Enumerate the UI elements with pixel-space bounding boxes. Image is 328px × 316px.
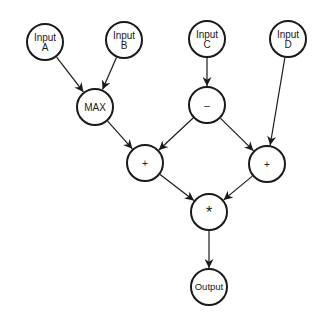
node-label: A [42, 42, 49, 53]
arrow-icon [160, 175, 194, 201]
node-label: C [203, 39, 210, 50]
node-minus: – [189, 87, 225, 123]
node-label: D [284, 39, 291, 50]
node-label: + [142, 158, 148, 169]
node-label: * [206, 204, 212, 221]
node-inputB: InputB [106, 22, 142, 58]
arrow-icon [270, 58, 285, 146]
node-max: MAX [77, 89, 113, 125]
node-inputC: InputC [189, 21, 225, 57]
node-plusRight: + [249, 146, 285, 182]
edge-max-to-plusLeft [108, 121, 133, 149]
nodes-layer: InputAInputBInputCInputDMAX–++*Output [27, 21, 306, 305]
arrow-icon [224, 176, 253, 200]
node-multiply: * [191, 194, 227, 230]
edge-inputB-to-max [103, 57, 117, 89]
arrow-icon [57, 57, 84, 92]
edge-inputD-to-plusRight [270, 58, 285, 146]
node-output: Output [191, 269, 227, 305]
computation-graph: InputAInputBInputCInputDMAX–++*Output [0, 0, 328, 316]
node-label: – [204, 100, 210, 111]
arrow-icon [103, 57, 117, 89]
arrow-icon [108, 121, 133, 149]
edge-plusRight-to-multiply [224, 176, 253, 200]
node-label: Output [195, 281, 224, 292]
edge-plusLeft-to-multiply [160, 175, 194, 201]
node-inputD: InputD [270, 21, 306, 57]
node-label: MAX [84, 102, 106, 113]
node-inputA: InputA [27, 24, 63, 60]
arrow-icon [159, 118, 193, 150]
node-label: + [264, 159, 270, 170]
edge-minus-to-plusRight [221, 118, 254, 150]
edge-minus-to-plusLeft [159, 118, 193, 150]
node-plusLeft: + [127, 145, 163, 181]
node-label: B [121, 40, 128, 51]
edge-inputA-to-max [57, 57, 84, 92]
arrow-icon [221, 118, 254, 150]
